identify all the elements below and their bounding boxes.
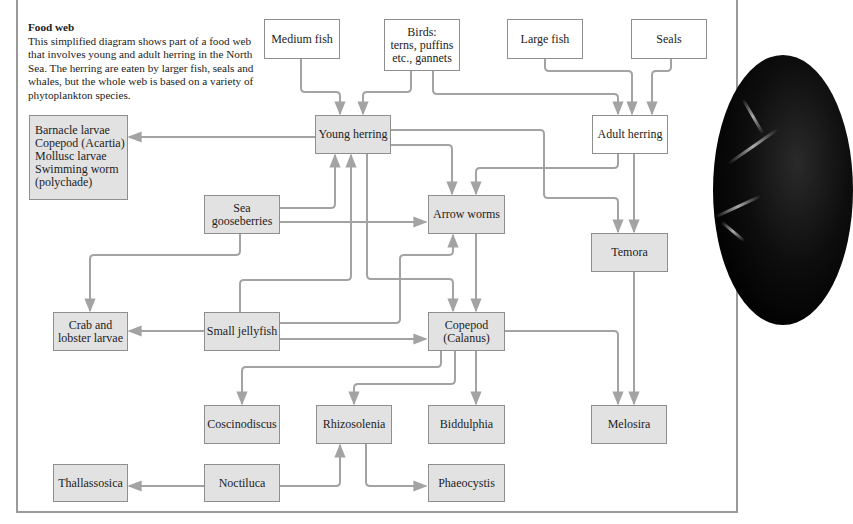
- node-phaeocystis: Phaeocystis: [428, 464, 505, 502]
- node-melosira: Melosira: [591, 405, 667, 444]
- node-seals: Seals: [631, 19, 707, 59]
- node-barnacle-group: Barnacle larvae Copepod (Acartia) Mollus…: [29, 115, 128, 200]
- diagram-title: Food web: [28, 21, 256, 35]
- plankton-photo: [713, 55, 853, 325]
- intro-text-block: Food web This simplified diagram shows p…: [28, 21, 256, 102]
- node-copepod-calanus: Copepod (Calanus): [428, 312, 505, 351]
- node-coscinodiscus: Coscinodiscus: [204, 405, 280, 444]
- node-crab-lobster-larvae: Crab and lobster larvae: [53, 312, 128, 351]
- node-small-jellyfish: Small jellyfish: [204, 312, 280, 351]
- node-birds: Birds: terns, puffins etc., gannets: [384, 19, 460, 71]
- node-arrow-worms: Arrow worms: [428, 195, 505, 234]
- node-sea-gooseberries: Sea gooseberries: [204, 195, 280, 234]
- node-rhizosolenia: Rhizosolenia: [316, 405, 392, 444]
- node-adult-herring: Adult herring: [592, 115, 668, 154]
- node-medium-fish: Medium fish: [264, 19, 340, 59]
- node-young-herring: Young herring: [315, 115, 391, 154]
- node-thallassosica: Thallassosica: [53, 464, 128, 502]
- node-noctiluca: Noctiluca: [204, 464, 280, 502]
- node-large-fish: Large fish: [507, 19, 583, 59]
- node-temora: Temora: [591, 233, 668, 272]
- node-biddulphia: Biddulphia: [428, 405, 505, 444]
- diagram-description: This simplified diagram shows part of a …: [28, 35, 253, 101]
